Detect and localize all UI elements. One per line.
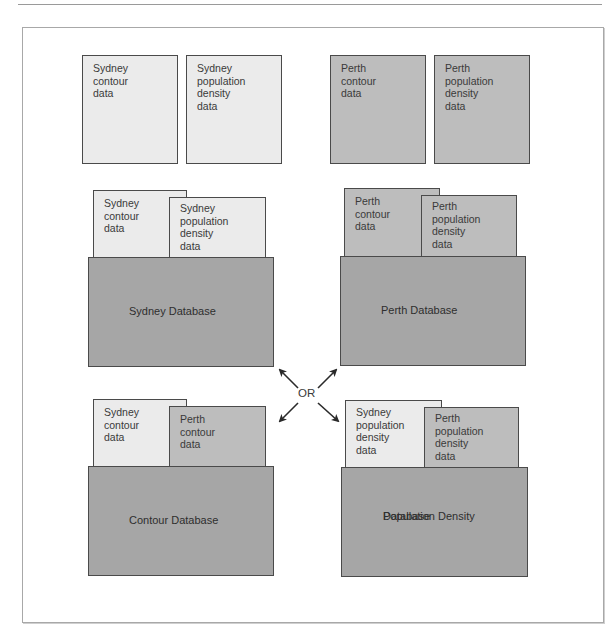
four-way-arrow-icon [0,0,616,638]
or-label: OR [298,387,315,399]
